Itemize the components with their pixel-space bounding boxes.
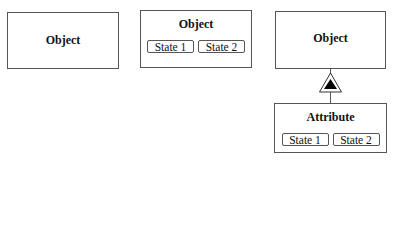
state-list: State 1 State 2 [275,133,386,146]
state-pill: State 2 [333,133,380,146]
attribute-title: Attribute [275,110,386,125]
state-pill: State 1 [282,133,329,146]
attribute-box: Attribute State 1 State 2 [274,103,387,153]
